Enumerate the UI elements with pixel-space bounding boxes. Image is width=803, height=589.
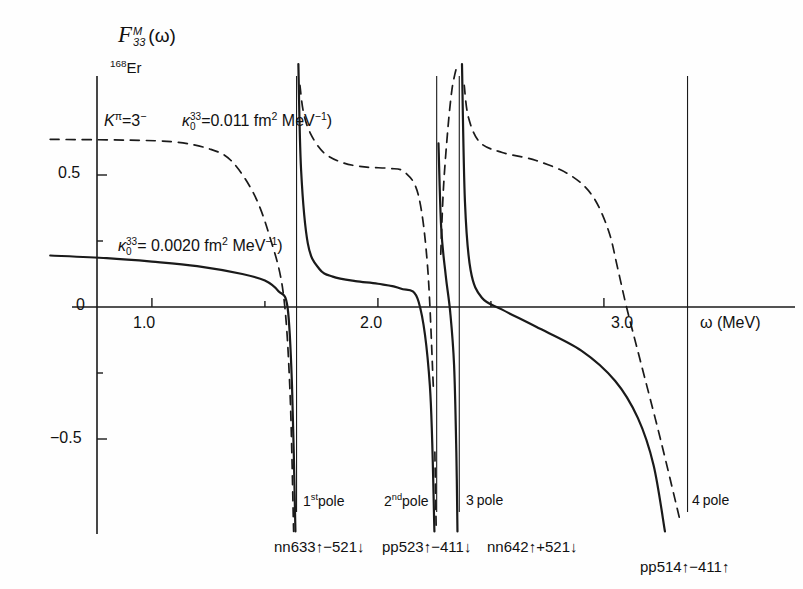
- pole-config-4: pp514↑−411↑: [640, 558, 729, 575]
- pole-3-word: pole: [477, 492, 503, 508]
- kappa-dashed-label: κ 33 0 =0.011 fm2 MeV−1): [182, 110, 332, 132]
- isotope-label: 168Er: [110, 58, 141, 76]
- y-tick-label-0.5: 0.5: [58, 164, 80, 182]
- pole-1-number: 1: [303, 493, 311, 509]
- pole-label-3: 3pole: [466, 492, 503, 508]
- pole-label-1: 1stpole: [303, 492, 344, 509]
- quantum-k: K: [104, 112, 115, 129]
- quantum-value: =3: [122, 112, 140, 129]
- isotope-mass: 168: [110, 58, 126, 69]
- kappa-solid-value: = 0.0020 fm: [137, 237, 222, 254]
- curve-dashed-branch-3: [441, 64, 458, 254]
- title-argument: (ω): [148, 25, 176, 46]
- curve-dashed-branch-4: [464, 85, 681, 523]
- x-axis-label: ω (MeV): [700, 314, 761, 332]
- curve-dashed-branch-0: [50, 139, 293, 531]
- x-tick-label-3.0: 3.0: [611, 314, 633, 332]
- figure-root: F M 33 (ω) 168Er Kπ=3− κ 33 0 =0.011 fm2…: [0, 0, 803, 589]
- curve-solid-branch-1: [298, 64, 434, 531]
- x-tick-label-1.0: 1.0: [133, 314, 155, 332]
- kappa-solid-label: κ 33 0 = 0.0020 fm2 MeV−1): [118, 235, 283, 257]
- quantum-parity-sup: π: [115, 110, 122, 122]
- kappa-solid-sub: 0: [126, 247, 137, 257]
- kappa-solid-symbol: κ: [118, 237, 126, 254]
- title-symbol: F: [118, 22, 132, 47]
- pole-4-word: pole: [703, 492, 729, 508]
- y-tick-label-minus0.5: −0.5: [50, 429, 82, 447]
- pole-label-2: 2ndpole: [384, 492, 429, 509]
- kappa-solid-unit: MeV: [228, 237, 265, 254]
- pole-config-3: nn642↑+521↓: [487, 538, 578, 555]
- quantum-number-label: Kπ=3−: [104, 110, 146, 130]
- kappa-dashed-unit: MeV: [277, 112, 314, 129]
- pole-lines-layer: [297, 76, 688, 512]
- pole-4-number: 4: [692, 492, 700, 508]
- pole-1-word: pole: [318, 493, 344, 509]
- isotope-symbol: Er: [126, 59, 141, 76]
- pole-label-4: 4pole: [692, 492, 729, 508]
- pole-1-ordinal: st: [311, 492, 318, 502]
- curve-solid-branch-2: [438, 143, 457, 531]
- kappa-dashed-sub: 0: [190, 122, 201, 132]
- kappa-solid-unit-exp: −1: [265, 235, 277, 247]
- title-subscript: 33: [133, 37, 145, 48]
- curves-layer: [50, 64, 681, 531]
- kappa-dashed-symbol: κ: [182, 112, 190, 129]
- pole-2-word: pole: [402, 493, 428, 509]
- kappa-solid-tail: ): [277, 237, 282, 254]
- kappa-dashed-unit-exp: −1: [315, 110, 327, 122]
- pole-config-2: pp523↑−411↓: [382, 538, 471, 555]
- x-tick-label-2.0: 2.0: [360, 314, 382, 332]
- kappa-dashed-tail: ): [327, 112, 332, 129]
- pole-2-ordinal: nd: [392, 492, 402, 502]
- pole-3-number: 3: [466, 492, 474, 508]
- y-tick-label-0: 0: [76, 296, 85, 314]
- curve-solid-branch-3: [462, 64, 665, 531]
- kappa-dashed-value: =0.011 fm: [201, 112, 271, 129]
- pole-config-1: nn633↑−521↓: [274, 538, 365, 555]
- curve-solid-branch-0: [50, 256, 295, 532]
- page-title: F M 33 (ω): [118, 22, 176, 48]
- pole-2-number: 2: [384, 493, 392, 509]
- quantum-minus: −: [140, 110, 146, 122]
